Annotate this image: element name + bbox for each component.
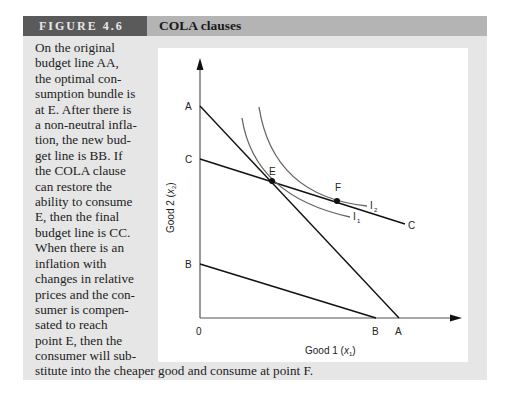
point-F [334, 198, 340, 204]
caption-line: changes in relative [35, 271, 160, 286]
caption-line: the optimal con- [35, 71, 160, 86]
budget-line-BB [200, 264, 376, 318]
y-axis-label: Good 2 (x2) [165, 182, 177, 233]
caption-line: inflation with [35, 256, 160, 271]
caption-line: budget line AA, [35, 55, 160, 70]
label-C-end: C [408, 220, 415, 231]
figure-title: COLA clauses [147, 16, 487, 36]
figure-header: FIGURE 4.6 COLA clauses [23, 16, 487, 36]
caption-line: sated to reach [35, 317, 160, 332]
caption-line: E, then the final [35, 209, 160, 224]
caption-line: ability to consume [35, 194, 160, 209]
point-E [269, 178, 275, 184]
caption-line: a non-neutral infla- [35, 117, 160, 132]
label-C-y: C [185, 154, 192, 165]
label-B-y: B [185, 259, 192, 270]
figure-number: FIGURE 4.6 [23, 16, 147, 36]
caption-last-line: stitute into the cheaper good and consum… [35, 363, 313, 378]
label-I2: I [370, 200, 373, 211]
y-axis-arrow-icon [197, 58, 204, 70]
label-B-x: B [372, 326, 379, 337]
caption-line: consumer will sub- [35, 348, 160, 363]
x-axis-label: Good 1 (x1) [305, 345, 356, 357]
caption-line: at E. After there is [35, 102, 160, 117]
budget-line-chart: E F I 2 I 1 A C B C 0 B A Good 1 (x1) Go… [158, 48, 468, 362]
label-A-y: A [185, 101, 192, 112]
caption-line: On the original [35, 40, 160, 55]
x-axis-arrow-icon [450, 315, 462, 322]
label-I1-subscript: 1 [357, 218, 361, 224]
caption-line: sumer is compen- [35, 302, 160, 317]
caption-line: the COLA clause [35, 163, 160, 178]
label-E: E [269, 166, 276, 177]
caption-line: sumption bundle is [35, 86, 160, 101]
label-I1: I [353, 211, 356, 222]
caption-line: prices and the con- [35, 287, 160, 302]
caption-line: can restore the [35, 179, 160, 194]
caption-line: get line is BB. If [35, 148, 160, 163]
figure-caption: On the original budget line AA, the opti… [35, 40, 160, 364]
chart-panel: E F I 2 I 1 A C B C 0 B A Good 1 (x1) Go… [158, 48, 468, 362]
figure-box: FIGURE 4.6 COLA clauses On the original … [23, 16, 487, 380]
caption-line: When there is an [35, 240, 160, 255]
caption-line: point E, then the [35, 333, 160, 348]
label-origin: 0 [196, 326, 202, 337]
label-F: F [335, 182, 341, 193]
caption-line: budget line is CC. [35, 225, 160, 240]
caption-line: tion, the new bud- [35, 132, 160, 147]
label-I2-subscript: 2 [374, 207, 378, 213]
label-A-x: A [395, 326, 402, 337]
indifference-curve-I2 [259, 107, 367, 206]
